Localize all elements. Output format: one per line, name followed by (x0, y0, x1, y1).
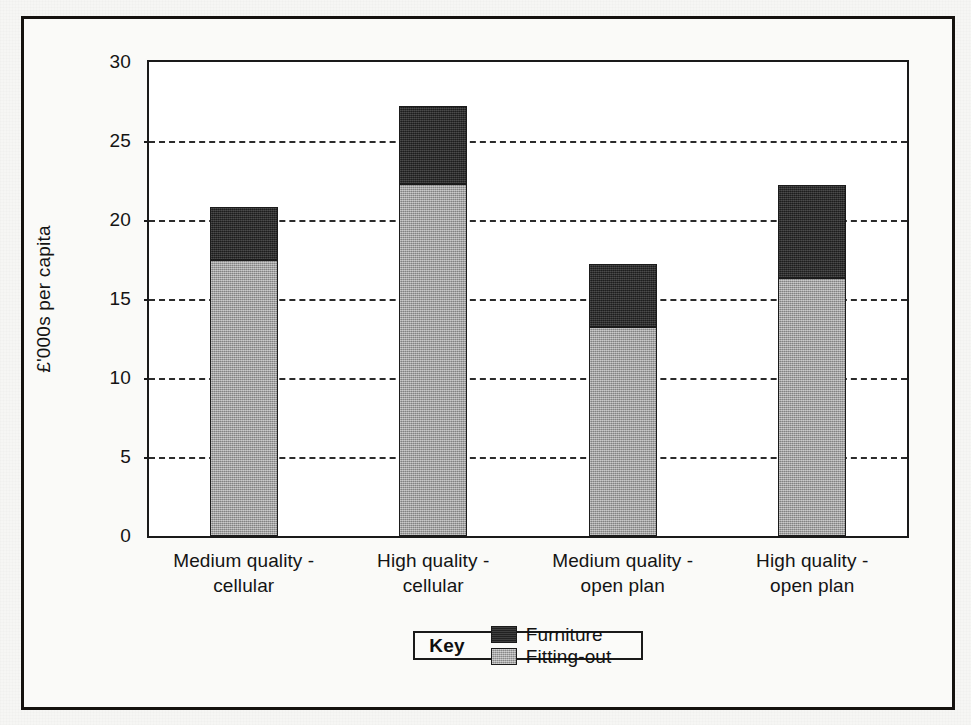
y-tick-label-30: 30 (85, 51, 131, 73)
y-tick-label-0: 0 (85, 525, 131, 547)
bar-1-segment-fitting-out (210, 260, 278, 537)
bar-2-segment-furniture (399, 106, 467, 183)
bar-3-segment-fitting-out (589, 327, 657, 536)
x-category-label-3-line-2: open plan (518, 573, 728, 598)
legend-label-furniture: Furniture (526, 624, 603, 646)
legend-key-label: Key (429, 635, 464, 657)
bar-1 (210, 207, 278, 536)
bar-3 (589, 264, 657, 536)
chart-legend: Key FurnitureFitting-out (413, 631, 642, 660)
bar-1-segment-furniture (210, 207, 278, 259)
bar-2-segment-fitting-out (399, 184, 467, 536)
y-axis-title: £'000s per capita (33, 225, 55, 373)
legend-entries: FurnitureFitting-out (491, 624, 627, 668)
x-category-label-4-line-2: open plan (707, 573, 917, 598)
legend-entry-fitting-out: Fitting-out (491, 646, 627, 668)
gridline-25 (149, 141, 907, 143)
bar-4 (778, 185, 846, 536)
y-tick-label-25: 25 (85, 130, 131, 152)
x-category-label-2: High quality -cellular (328, 548, 538, 598)
legend-label-fitting-out: Fitting-out (526, 646, 612, 668)
stacked-bar-chart: £'000s per capita 051015202530 Medium qu… (0, 0, 971, 725)
y-tick-label-5: 5 (85, 446, 131, 468)
plot-area (149, 62, 907, 536)
bar-4-segment-furniture (778, 185, 846, 278)
bar-3-segment-furniture (589, 264, 657, 327)
grey-swatch-icon (491, 648, 517, 665)
bar-2 (399, 106, 467, 536)
bar-4-segment-fitting-out (778, 278, 846, 536)
x-category-label-1-line-2: cellular (139, 573, 349, 598)
x-category-label-1-line-1: Medium quality - (139, 548, 349, 573)
dark-swatch-icon (491, 626, 517, 643)
legend-entry-furniture: Furniture (491, 624, 603, 646)
y-tick-label-20: 20 (85, 209, 131, 231)
x-category-label-2-line-1: High quality - (328, 548, 538, 573)
y-tick-label-10: 10 (85, 367, 131, 389)
x-category-label-3: Medium quality -open plan (518, 548, 728, 598)
x-category-label-4-line-1: High quality - (707, 548, 917, 573)
x-category-label-1: Medium quality -cellular (139, 548, 349, 598)
y-tick-label-15: 15 (85, 288, 131, 310)
x-category-label-4: High quality -open plan (707, 548, 917, 598)
x-category-label-2-line-2: cellular (328, 573, 538, 598)
x-category-label-3-line-1: Medium quality - (518, 548, 728, 573)
